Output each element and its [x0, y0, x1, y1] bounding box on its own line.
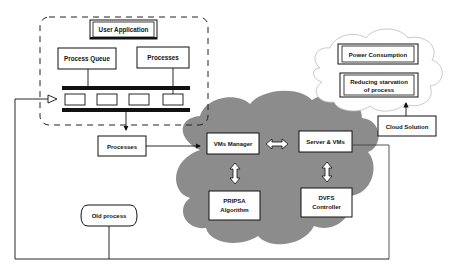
queue-slot: [97, 94, 117, 105]
process-queue-box[interactable]: Process Queue: [58, 48, 116, 69]
goals-cloud: [314, 29, 443, 111]
dvfs-controller-box[interactable]: DVFS Controller: [301, 188, 352, 217]
cloud-solution-box[interactable]: Cloud Solution: [378, 116, 436, 136]
queue-slot: [129, 94, 149, 105]
queue-slot: [163, 94, 183, 105]
cloud-solution-label: Cloud Solution: [386, 124, 429, 130]
queue-bottom-bar: [62, 108, 190, 112]
pripsa-label-line1: PRIPSA: [223, 198, 246, 204]
processes-mid-box[interactable]: Processes: [98, 136, 146, 156]
processes-top-label: Processes: [147, 54, 179, 61]
processes-mid-label: Processes: [107, 144, 138, 150]
power-consumption-box[interactable]: Power Consumption: [338, 44, 418, 64]
queue-slots: [65, 94, 183, 105]
old-process-label: Old process: [92, 213, 127, 219]
reducing-starvation-box[interactable]: Reducing starvation of process: [340, 73, 418, 97]
power-consumption-label: Power Consumption: [349, 52, 408, 58]
reducing-starvation-line2: of process: [364, 87, 395, 93]
queue-slot: [65, 94, 85, 105]
pripsa-algorithm-box[interactable]: PRIPSA Algorithm: [209, 191, 260, 220]
dvfs-label-line2: Controller: [312, 204, 341, 210]
server-vms-label: Server & VMs: [306, 139, 345, 145]
system-architecture-diagram: User Application Process Queue Processes…: [0, 0, 450, 274]
cloud-computing-region: [176, 91, 379, 245]
process-queue-label: Process Queue: [64, 55, 110, 63]
queue-top-bar: [62, 86, 190, 90]
server-vms-box[interactable]: Server & VMs: [299, 131, 352, 152]
pripsa-label-line2: Algorithm: [220, 207, 248, 213]
user-application-box[interactable]: User Application: [90, 20, 157, 39]
old-process-box[interactable]: Old process: [81, 205, 137, 226]
dvfs-label-line1: DVFS: [318, 195, 334, 201]
vms-manager-box[interactable]: VMs Manager: [207, 133, 259, 154]
reducing-starvation-line1: Reducing starvation: [350, 79, 408, 85]
processes-top-box[interactable]: Processes: [137, 47, 189, 68]
user-application-label: User Application: [99, 26, 149, 34]
queue-input-arrow-icon: [48, 95, 57, 103]
vms-manager-label: VMs Manager: [214, 141, 253, 147]
